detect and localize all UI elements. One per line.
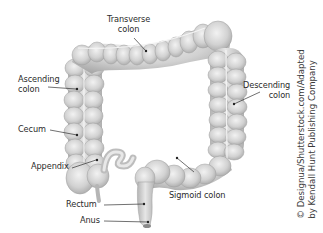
label-ascending-colon: Ascending colon <box>18 75 60 94</box>
label-cecum: Cecum <box>18 125 46 135</box>
label-descending-colon: Descending colon <box>243 81 290 100</box>
label-ascending-line2: colon <box>18 85 60 95</box>
image-credit: © Designua/Shutterstock.com/Adapted by K… <box>296 49 317 218</box>
appendix <box>97 186 99 201</box>
label-appendix: Appendix <box>31 162 69 172</box>
descending-colon <box>208 48 247 160</box>
label-sigmoid-colon: Sigmoid colon <box>169 191 225 201</box>
label-anus: Anus <box>80 216 100 226</box>
label-transverse-colon: Transverse colon <box>107 15 150 34</box>
label-descending-line2: colon <box>243 91 290 101</box>
transverse-colon <box>72 21 232 74</box>
credit-line2: by Kendall Hunt Publishing Company <box>306 49 317 218</box>
credit-line1: © Designua/Shutterstock.com/Adapted <box>296 49 307 218</box>
rectum <box>137 182 155 228</box>
label-transverse-line2: colon <box>107 25 150 35</box>
label-rectum: Rectum <box>66 200 97 210</box>
colon-diagram <box>0 0 323 233</box>
